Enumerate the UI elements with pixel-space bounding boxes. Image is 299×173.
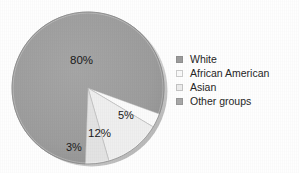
legend-swatch-icon-other-groups (176, 98, 183, 105)
legend-label-white: White (190, 52, 217, 66)
legend-swatch-icon-african-american (176, 70, 183, 77)
legend-label-other-groups: Other groups (190, 94, 251, 108)
legend-label-asian: Asian (190, 80, 216, 94)
legend-item-white: White (176, 52, 296, 66)
pie-chart-figure: 80% 3% 12% 5% White African American Asi… (0, 0, 299, 173)
chart-legend: White African American Asian Other group… (176, 52, 296, 108)
legend-swatch-icon-white (176, 56, 183, 63)
legend-label-african-american: African American (190, 66, 269, 80)
legend-item-other-groups: Other groups (176, 94, 296, 108)
legend-item-asian: Asian (176, 80, 296, 94)
slice-label-white: 80% (70, 55, 93, 67)
legend-swatch-icon-asian (176, 84, 183, 91)
slice-label-african-american: 3% (66, 142, 82, 153)
pie-svg (0, 0, 180, 173)
pie-chart-graphic: 80% 3% 12% 5% (0, 0, 180, 173)
legend-item-african-american: African American (176, 66, 296, 80)
slice-label-asian: 12% (88, 128, 111, 140)
slice-label-other-groups: 5% (118, 110, 134, 121)
